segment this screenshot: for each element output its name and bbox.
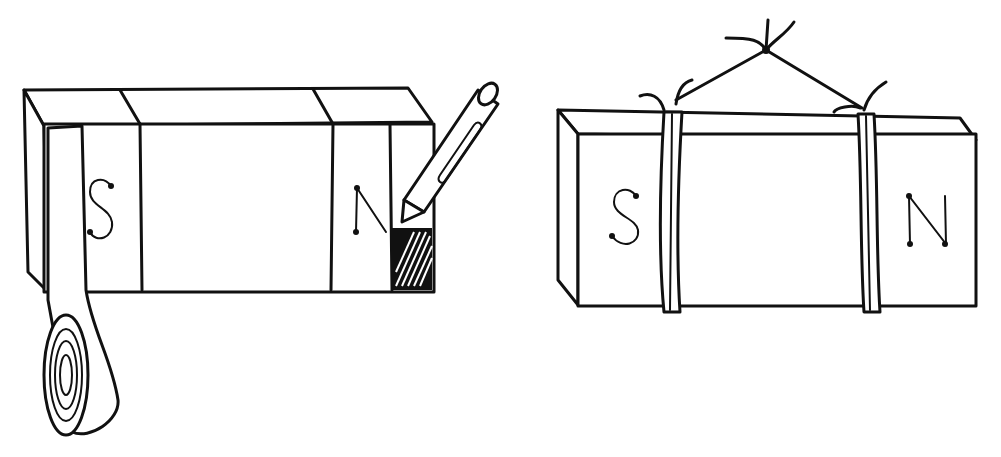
diagram-canvas xyxy=(0,0,1001,457)
crayon-mark xyxy=(392,228,432,290)
right-magnet xyxy=(558,110,976,306)
